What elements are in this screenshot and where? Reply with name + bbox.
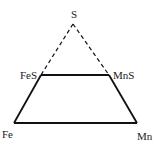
label-mn: Mn <box>137 130 153 142</box>
fe-mn-s-diagram: S FeS MnS Fe Mn <box>0 0 155 145</box>
label-fes: FeS <box>20 69 37 81</box>
label-s: S <box>71 8 77 20</box>
label-fe: Fe <box>2 128 13 140</box>
label-mns: MnS <box>113 69 134 81</box>
edge-fes-fe <box>14 75 41 123</box>
edge-s-fes <box>41 24 73 75</box>
edge-mns-mn <box>109 75 137 123</box>
edge-s-mns <box>73 24 109 75</box>
